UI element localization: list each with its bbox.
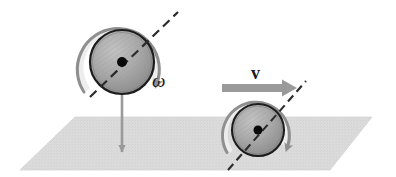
left-wheel-hub xyxy=(117,57,127,67)
diagram-canvas: ω v xyxy=(0,0,396,177)
right-wheel-hub xyxy=(254,126,263,135)
ground-plane-group xyxy=(20,117,372,170)
ground-plane-shade xyxy=(20,117,372,170)
omega-label: ω xyxy=(152,70,165,91)
physics-diagram: ω v xyxy=(0,0,396,177)
velocity-label: v xyxy=(251,63,260,83)
